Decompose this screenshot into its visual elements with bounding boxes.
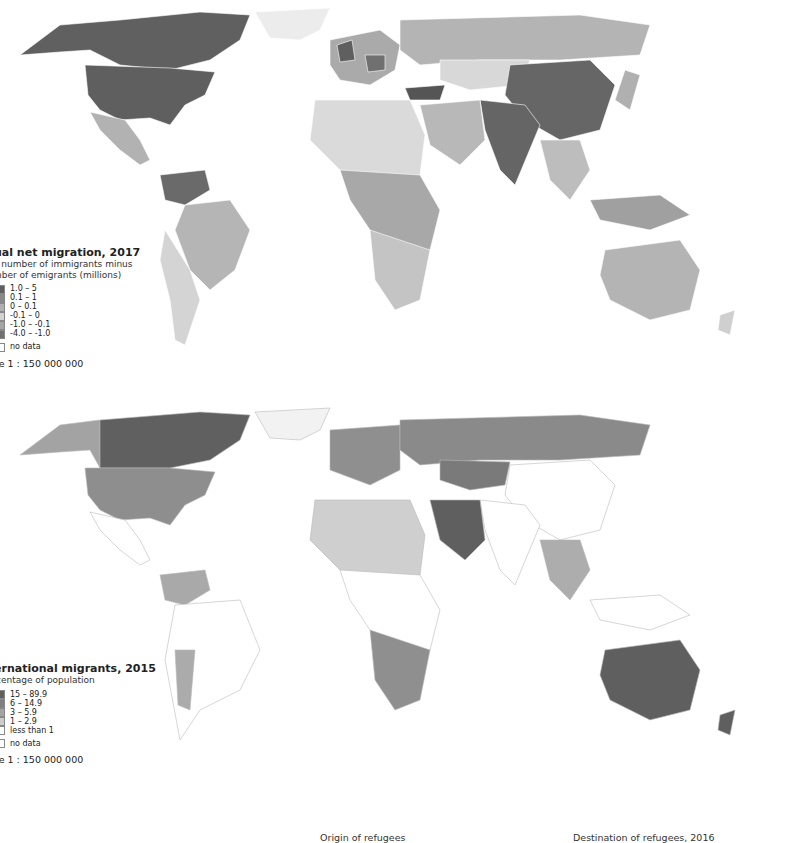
legend-swatch — [0, 726, 5, 735]
legend-subtitle: centage of population — [0, 675, 156, 686]
legend-title: ernational migrants, 2015 — [0, 662, 156, 675]
legend-swatch — [0, 708, 5, 717]
legend-label: less than 1 — [10, 726, 54, 736]
map-scale: le 1 : 150 000 000 — [0, 358, 140, 369]
net-migration-legend: ual net migration, 2017 l number of immi… — [0, 246, 140, 369]
international-migrants-legend: ernational migrants, 2015 centage of pop… — [0, 662, 156, 765]
map-scale: le 1 : 150 000 000 — [0, 754, 156, 765]
legend-label: no data — [10, 739, 41, 749]
legend-item: less than 1 — [0, 726, 156, 735]
legend-swatch — [0, 330, 5, 339]
legend-item: 3 – 5.9 — [0, 708, 156, 717]
legend-item: 1 – 2.9 — [0, 717, 156, 726]
legend-item: 1.0 – 5 — [0, 285, 140, 294]
legend-swatch — [0, 285, 5, 294]
legend-swatch — [0, 690, 5, 699]
caption-origin-refugees: Origin of refugees — [320, 832, 406, 843]
legend-item: 15 – 89.9 — [0, 690, 156, 699]
legend-swatch — [0, 312, 5, 321]
legend-item: 0.1 – 1 — [0, 294, 140, 303]
legend-item: 0 – 0.1 — [0, 303, 140, 312]
legend-label: no data — [10, 342, 41, 352]
legend-swatch — [0, 343, 5, 352]
legend-swatch — [0, 739, 5, 748]
legend-item-no-data: no data — [0, 343, 140, 352]
legend-swatch — [0, 699, 5, 708]
legend-swatch — [0, 321, 5, 330]
legend-item-no-data: no data — [0, 739, 156, 748]
legend-label: -4.0 – -1.0 — [10, 329, 50, 339]
caption-destination-refugees: Destination of refugees, 2016 — [573, 832, 715, 843]
legend-item: -4.0 – -1.0 — [0, 330, 140, 339]
legend-swatch — [0, 303, 5, 312]
legend-swatch — [0, 717, 5, 726]
legend-item: 6 – 14.9 — [0, 699, 156, 708]
legend-item: -0.1 – 0 — [0, 312, 140, 321]
legend-subtitle: l number of immigrants minus — [0, 259, 140, 270]
legend-title: ual net migration, 2017 — [0, 246, 140, 259]
legend-swatch — [0, 294, 5, 303]
legend-item: -1.0 – -0.1 — [0, 321, 140, 330]
legend-subtitle: nber of emigrants (millions) — [0, 270, 140, 281]
